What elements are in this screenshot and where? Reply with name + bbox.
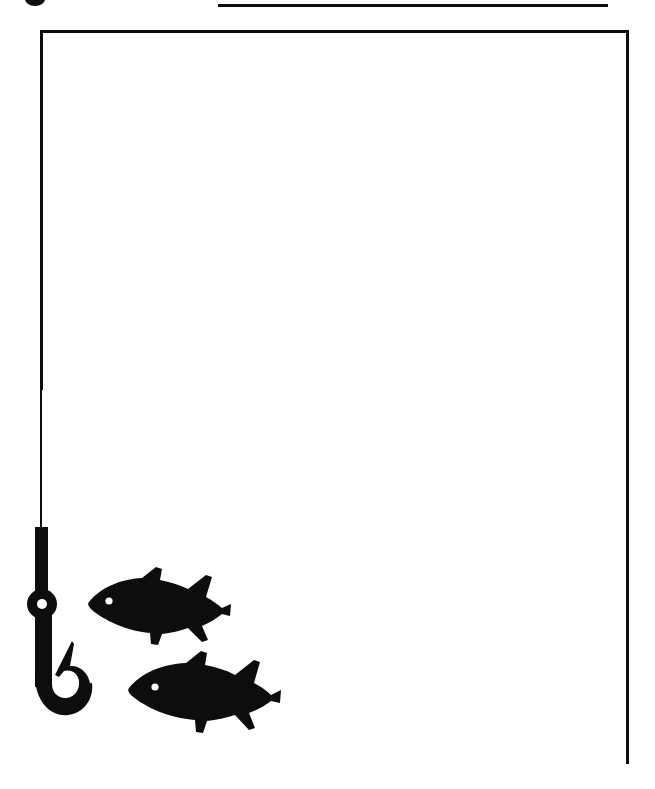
fish-silhouette — [126, 650, 286, 736]
frame-right-edge — [626, 30, 629, 764]
frame-top-edge — [40, 30, 629, 33]
page-canvas — [0, 0, 655, 789]
fishing-line — [40, 388, 42, 530]
frame-left-edge — [40, 30, 43, 390]
fish-silhouette — [86, 566, 234, 648]
cropped-glyph-icon — [25, 0, 45, 6]
top-horizontal-rule — [218, 4, 608, 7]
